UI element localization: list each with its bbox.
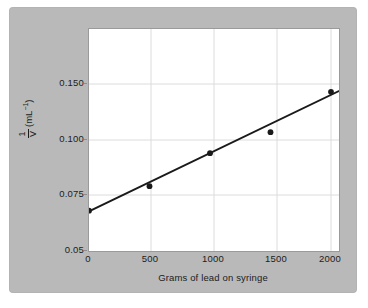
plot-area bbox=[88, 28, 340, 252]
y-axis-fraction: 1 V bbox=[18, 129, 38, 139]
x-axis-tick-label: 1500 bbox=[265, 253, 287, 264]
y-axis-units-exponent: −1 bbox=[22, 103, 29, 111]
y-axis-units-open: (mL bbox=[23, 111, 34, 127]
x-axis-tick-labels: 0500100015002000 bbox=[10, 253, 356, 269]
y-axis-tick-label: 0.075 bbox=[59, 188, 84, 199]
data-point bbox=[207, 150, 213, 156]
y-axis-tick-mark bbox=[84, 194, 87, 195]
data-point bbox=[268, 129, 274, 135]
y-axis-tick-mark bbox=[84, 83, 87, 84]
y-axis-numerator: 1 bbox=[18, 129, 29, 138]
y-axis-units: (mL−1) bbox=[22, 99, 34, 127]
y-axis-denominator: V bbox=[29, 129, 39, 139]
data-point bbox=[89, 208, 92, 214]
y-axis-units-close: ) bbox=[23, 99, 34, 102]
x-axis-title: Grams of lead on syringe bbox=[88, 272, 338, 283]
x-axis-tick-label: 1000 bbox=[202, 253, 224, 264]
x-axis-tick-label: 500 bbox=[142, 253, 158, 264]
y-axis-tick-label: 0.150 bbox=[59, 77, 84, 88]
y-axis-tick-labels: 0.1500.1000.0750.05 bbox=[46, 8, 84, 292]
y-axis-tick-mark bbox=[84, 139, 87, 140]
x-axis-tick-label: 2000 bbox=[319, 253, 341, 264]
x-axis-tick-label: 0 bbox=[85, 253, 90, 264]
data-point bbox=[328, 89, 334, 95]
plot-canvas bbox=[89, 29, 339, 251]
y-axis-tick-label: 0.100 bbox=[59, 133, 84, 144]
gridlines bbox=[89, 29, 339, 251]
chart-panel: 0.1500.1000.0750.05 0500100015002000 Gra… bbox=[10, 8, 356, 292]
y-axis-tick-mark bbox=[84, 250, 87, 251]
y-axis-title: 1 V (mL−1) bbox=[18, 99, 38, 139]
figure-root: 0.1500.1000.0750.05 0500100015002000 Gra… bbox=[0, 0, 368, 308]
data-point bbox=[147, 183, 153, 189]
